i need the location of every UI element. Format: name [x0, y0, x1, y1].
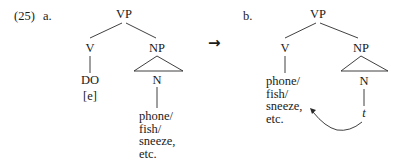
tree-b-vp: VP — [310, 7, 326, 21]
tree-edges — [0, 0, 400, 167]
tree-a-do: DO — [81, 73, 99, 87]
edge-vp-v-b — [285, 23, 316, 38]
tree-b-label: b. — [243, 9, 252, 23]
tree-a-n: N — [152, 73, 161, 87]
tree-b-v-words: phone/ fish/ sneeze, etc. — [266, 75, 302, 125]
tree-a-n-words: phone/ fish/ sneeze, etc. — [139, 110, 175, 160]
tree-a-empty: [e] — [83, 89, 97, 103]
word: sneeze, — [139, 135, 175, 148]
movement-arrow — [313, 112, 362, 130]
word: etc. — [139, 148, 175, 161]
movement-arrowhead-icon — [310, 108, 316, 114]
edge-vp-np-a — [126, 23, 156, 38]
word: etc. — [266, 113, 302, 126]
example-number: (25) — [14, 9, 35, 23]
tree-a-vp: VP — [116, 7, 132, 21]
edge-vp-v-a — [90, 23, 122, 38]
tree-a-label: a. — [43, 9, 52, 23]
word: phone/ — [266, 75, 302, 88]
tree-a-v: V — [85, 41, 94, 55]
word: phone/ — [139, 110, 175, 123]
np-triangle-a — [134, 56, 183, 71]
tree-b-np: NP — [353, 41, 369, 55]
tree-b-v: V — [280, 41, 289, 55]
tree-a-np: NP — [149, 41, 165, 55]
edge-vp-np-b — [320, 23, 358, 38]
word: sneeze, — [266, 100, 302, 113]
np-triangle-b — [341, 56, 388, 71]
transition-arrow-icon: → — [208, 36, 221, 50]
tree-b-n: N — [359, 74, 368, 88]
tree-b-trace: t — [362, 106, 365, 120]
